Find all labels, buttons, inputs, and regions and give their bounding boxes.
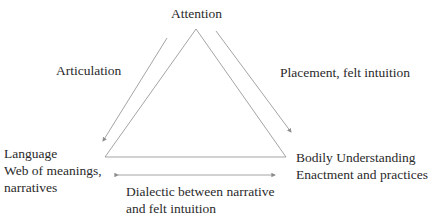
edge-label-dialectic-line-2: and felt intuition <box>126 200 274 217</box>
edge-label-articulation: Articulation <box>56 62 121 79</box>
node-language: Language Web of meanings, narratives <box>4 145 102 196</box>
node-attention: Attention <box>171 5 222 22</box>
node-bodily-line-2: Enactment and practices <box>296 166 428 183</box>
articulation-arrow <box>103 38 167 141</box>
node-language-line-2: Web of meanings, <box>4 162 102 179</box>
placement-arrow <box>216 31 291 132</box>
node-bodily-line-1: Bodily Understanding <box>296 149 428 166</box>
edge-label-dialectic-line-1: Dialectic between narrative <box>126 183 274 200</box>
node-bodily-understanding: Bodily Understanding Enactment and pract… <box>296 149 428 183</box>
edge-label-dialectic: Dialectic between narrative and felt int… <box>126 183 274 217</box>
node-language-line-3: narratives <box>4 179 102 196</box>
triangle <box>105 29 286 157</box>
node-language-line-1: Language <box>4 145 102 162</box>
edge-label-placement: Placement, felt intuition <box>280 64 410 81</box>
